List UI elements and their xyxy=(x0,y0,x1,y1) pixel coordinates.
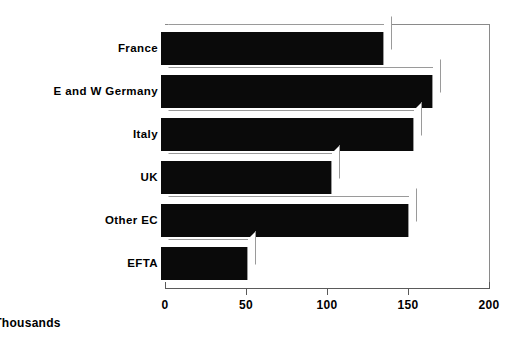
bar-top-face-efta xyxy=(161,239,256,247)
bar-side-face-efta xyxy=(248,231,256,272)
category-axis-labels: France E and W Germany Italy UK Other EC… xyxy=(0,28,158,288)
bar-side-face-e-and-w-germany xyxy=(433,59,441,100)
bar-front-face-uk xyxy=(161,161,332,194)
x-tick-label-150: 150 xyxy=(398,298,419,312)
bar-side-face-uk xyxy=(332,145,340,186)
x-tick-label-0: 0 xyxy=(162,298,169,312)
bar-italy xyxy=(161,118,414,151)
bar-front-face-e-and-w-germany xyxy=(161,75,433,108)
category-label-e-and-w-germany: E and W Germany xyxy=(0,85,158,97)
x-tick-150 xyxy=(408,288,409,295)
bars-area xyxy=(161,24,525,288)
category-label-other-ec: Other EC xyxy=(0,214,158,226)
bar-top-face-france xyxy=(161,24,392,32)
bar-france xyxy=(161,32,384,65)
bar-front-face-france xyxy=(161,32,384,65)
bar-chart: France E and W Germany Italy UK Other EC… xyxy=(0,0,525,342)
bar-side-face-other-ec xyxy=(409,188,417,229)
x-tick-50 xyxy=(246,288,247,295)
bar-top-face-other-ec xyxy=(161,196,417,204)
x-axis-title: Thousands xyxy=(0,316,525,330)
x-tick-label-50: 50 xyxy=(239,298,253,312)
bar-side-face-italy xyxy=(414,102,422,143)
bar-edge-italy xyxy=(413,118,414,151)
bar-edge-e-and-w-germany xyxy=(432,75,433,108)
bar-edge-uk xyxy=(331,161,332,194)
bar-e-and-w-germany xyxy=(161,75,433,108)
bar-side-face-france xyxy=(384,16,392,57)
category-label-efta: EFTA xyxy=(0,257,158,269)
x-tick-100 xyxy=(327,288,328,295)
bar-top-face-uk xyxy=(161,153,340,161)
category-label-france: France xyxy=(0,42,158,54)
bar-front-face-efta xyxy=(161,247,248,280)
bar-front-face-other-ec xyxy=(161,204,409,237)
x-tick-200 xyxy=(489,282,490,288)
bar-other-ec xyxy=(161,204,409,237)
category-label-uk: UK xyxy=(0,171,158,183)
bar-efta xyxy=(161,247,248,280)
x-tick-label-100: 100 xyxy=(317,298,338,312)
bar-top-face-e-and-w-germany xyxy=(161,67,441,75)
x-axis-title-text: Thousands xyxy=(0,316,61,330)
bar-front-face-italy xyxy=(161,118,414,151)
bar-edge-france xyxy=(383,32,384,65)
category-label-italy: Italy xyxy=(0,128,158,140)
bar-uk xyxy=(161,161,332,194)
bar-edge-efta xyxy=(247,247,248,280)
x-tick-0 xyxy=(165,282,166,288)
x-tick-label-200: 200 xyxy=(479,298,500,312)
bar-top-face-italy xyxy=(161,110,422,118)
bar-edge-other-ec xyxy=(408,204,409,237)
